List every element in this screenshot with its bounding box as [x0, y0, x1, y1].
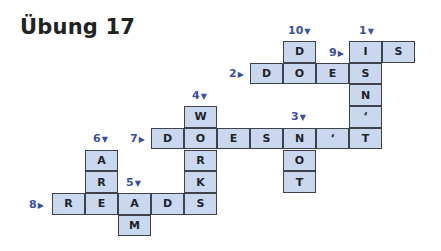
crossword-cell[interactable]: T [349, 128, 382, 150]
crossword-cell[interactable]: D [283, 41, 316, 63]
crossword-cell[interactable]: D [151, 128, 184, 150]
crossword-cell[interactable]: R [52, 193, 85, 215]
crossword-cell[interactable]: K [184, 171, 217, 193]
clue-number: 4 [192, 89, 200, 102]
clue-label-8-across: 8▶ [29, 198, 44, 211]
clue-label-6-down: 6▼ [93, 132, 108, 145]
crossword-cell[interactable]: E [85, 193, 118, 215]
clue-label-4-down: 4▼ [192, 89, 207, 102]
crossword-cell[interactable]: T [283, 171, 316, 193]
crossword-cell[interactable]: W [184, 106, 217, 128]
clue-number: 5 [126, 176, 134, 189]
crossword-cell[interactable]: S [184, 193, 217, 215]
crossword-cell[interactable]: E [316, 63, 349, 85]
arrow-right-icon: ▶ [38, 201, 44, 210]
crossword-cell[interactable]: S [349, 63, 382, 85]
clue-number: 6 [93, 132, 101, 145]
clue-number: 1 [359, 24, 367, 37]
crossword-cell[interactable]: ‘ [316, 128, 349, 150]
arrow-down-icon: ▼ [102, 135, 108, 144]
crossword-cell[interactable]: A [118, 193, 151, 215]
arrow-down-icon: ▼ [304, 27, 310, 36]
arrow-down-icon: ▼ [368, 27, 374, 36]
clue-label-5-down: 5▼ [126, 176, 141, 189]
arrow-down-icon: ▼ [300, 113, 306, 122]
clue-label-10-down: 10▼ [288, 24, 310, 37]
crossword-cell[interactable]: R [184, 150, 217, 172]
clue-number: 3 [291, 110, 299, 123]
arrow-right-icon: ▶ [238, 70, 244, 79]
crossword-cell[interactable]: I [349, 41, 382, 63]
clue-label-9-across: 9▶ [329, 46, 344, 59]
clue-number: 10 [288, 24, 303, 37]
crossword-cell[interactable]: N [283, 128, 316, 150]
crossword-cell[interactable]: E [217, 128, 250, 150]
clue-label-3-down: 3▼ [291, 110, 306, 123]
arrow-down-icon: ▼ [135, 179, 141, 188]
crossword-cell[interactable]: O [283, 63, 316, 85]
crossword-cell[interactable]: N [349, 84, 382, 106]
arrow-down-icon: ▼ [201, 92, 207, 101]
clue-label-2-across: 2▶ [229, 67, 244, 80]
clue-number: 9 [329, 46, 337, 59]
crossword-cell[interactable]: D [250, 63, 283, 85]
crossword-cell[interactable]: D [151, 193, 184, 215]
crossword-cell[interactable]: M [118, 215, 151, 237]
crossword-cell[interactable]: ‘ [349, 106, 382, 128]
crossword-cell[interactable]: A [85, 150, 118, 172]
crossword-cell[interactable]: O [283, 150, 316, 172]
clue-number: 8 [29, 198, 37, 211]
crossword-cell[interactable]: S [250, 128, 283, 150]
arrow-right-icon: ▶ [338, 49, 344, 58]
crossword-cell[interactable]: S [382, 41, 415, 63]
exercise-title: Übung 17 [20, 15, 135, 39]
arrow-right-icon: ▶ [139, 135, 145, 144]
clue-label-1-down: 1▼ [359, 24, 374, 37]
crossword-cell[interactable]: R [85, 171, 118, 193]
crossword-cell[interactable]: O [184, 128, 217, 150]
clue-number: 7 [130, 132, 138, 145]
clue-number: 2 [229, 67, 237, 80]
clue-label-7-across: 7▶ [130, 132, 145, 145]
